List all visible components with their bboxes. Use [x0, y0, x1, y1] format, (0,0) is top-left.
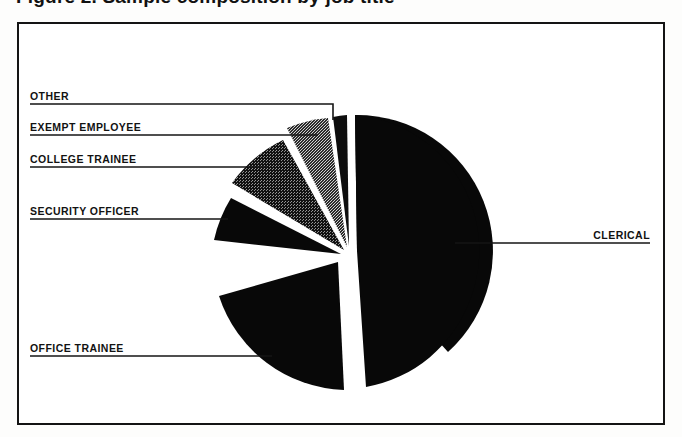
pie-label-security-officer: SECURITY OFFICER — [30, 206, 139, 217]
pie-slice-office-trainee[interactable] — [219, 262, 344, 390]
leader-line-other — [30, 104, 333, 120]
pie-label-college-trainee: COLLEGE TRAINEE — [30, 154, 137, 165]
pie-label-clerical: CLERICAL — [540, 230, 650, 241]
pie-slice-clerical-fill — [355, 115, 479, 387]
pie-label-exempt-employee: EXEMPT EMPLOYEE — [30, 122, 141, 133]
chart-page: Figure 2. Sample composition by job titl… — [0, 0, 682, 437]
pie-label-other: OTHER — [30, 91, 69, 102]
pie-label-office-trainee: OFFICE TRAINEE — [30, 343, 124, 354]
pie-chart-canvas — [0, 0, 682, 437]
